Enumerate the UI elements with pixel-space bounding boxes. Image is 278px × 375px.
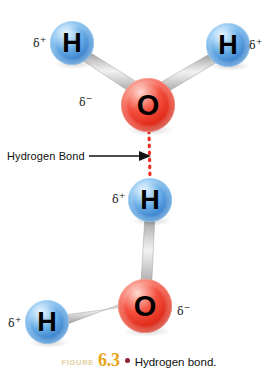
hydrogen-bond-callout-label: Hydrogen Bond	[7, 150, 85, 162]
caption-figure-number: 6.3	[98, 350, 120, 371]
charge-symbol: δ	[79, 96, 86, 109]
charge-label-h-bottom-left: δ+	[8, 318, 21, 329]
atom-label-h-top-right: H	[218, 30, 238, 60]
arrow-right-icon	[89, 149, 152, 163]
atom-oxygen-top: O	[121, 78, 175, 136]
charge-label-o-bottom: δ−	[177, 306, 190, 317]
atom-hydrogen-top-right: H	[206, 23, 250, 71]
charge-label-h-top-right: δ+	[249, 40, 262, 51]
caption-bullet-icon	[125, 358, 130, 363]
caption-text: Hydrogen bond.	[135, 356, 217, 368]
charge-sign: +	[119, 191, 126, 200]
hydrogen-bond-callout: Hydrogen Bond	[7, 149, 152, 163]
charge-label-o-top: δ−	[79, 97, 92, 108]
charge-sign: +	[15, 315, 22, 324]
charge-sign: −	[86, 94, 93, 103]
atom-hydrogen-middle: H	[128, 178, 172, 226]
figure-caption: Figure 6.3 Hydrogen bond.	[0, 350, 278, 371]
charge-label-h-middle: δ+	[112, 194, 125, 205]
charge-symbol: δ	[8, 317, 15, 330]
atom-label-o-top: O	[137, 89, 160, 121]
atom-oxygen-bottom: O	[118, 279, 172, 337]
charge-sign: −	[184, 303, 191, 312]
charge-sign: +	[40, 35, 47, 44]
molecule-diagram: H H O H O	[0, 0, 278, 352]
atom-hydrogen-top-left: H	[50, 21, 94, 69]
charge-symbol: δ	[249, 39, 256, 52]
charge-sign: +	[256, 37, 263, 46]
atom-label-h-top-left: H	[62, 28, 82, 58]
charge-symbol: δ	[112, 193, 119, 206]
atom-label-h-middle: H	[140, 185, 160, 215]
atom-hydrogen-bottom-left: H	[25, 300, 69, 348]
caption-figure-word: Figure	[62, 358, 95, 367]
atom-label-o-bottom: O	[134, 290, 157, 322]
charge-label-h-top-left: δ+	[33, 38, 46, 49]
atom-label-h-bottom-left: H	[37, 307, 57, 337]
figure-container: H H O H O	[0, 0, 278, 375]
charge-symbol: δ	[177, 305, 184, 318]
charge-symbol: δ	[33, 37, 40, 50]
